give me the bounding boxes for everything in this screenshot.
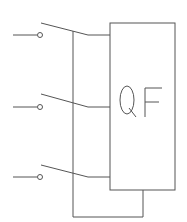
switch-1 bbox=[13, 23, 110, 38]
switch-3 bbox=[13, 165, 110, 180]
switch-blade-3 bbox=[41, 165, 88, 177]
switch-blade-1 bbox=[41, 23, 88, 35]
switch-blade-2 bbox=[41, 94, 88, 107]
breaker-box bbox=[110, 23, 175, 190]
circuit-diagram: QF bbox=[0, 0, 187, 222]
terminal-1 bbox=[38, 33, 43, 38]
breaker-label bbox=[120, 86, 162, 117]
terminal-2 bbox=[38, 105, 43, 110]
switch-2 bbox=[13, 94, 110, 110]
linkage bbox=[73, 31, 143, 217]
terminal-3 bbox=[38, 175, 43, 180]
